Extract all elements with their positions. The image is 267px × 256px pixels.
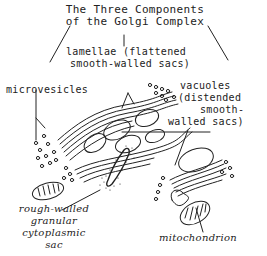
label-mitochondrion: mitochondrion xyxy=(143,232,253,243)
golgi-diagram: The Three Components of the Golgi Comple… xyxy=(0,0,267,256)
label-lamellae-line2: smooth-walled sacs) xyxy=(70,58,190,69)
lamellae-leader-branch xyxy=(128,93,134,104)
label-rough-sac-line1: rough-walled xyxy=(4,203,104,214)
label-rough-sac-line4: sac xyxy=(4,239,104,250)
title-leader-vacuoles xyxy=(208,26,228,60)
label-rough-sac-line2: granular xyxy=(4,215,104,226)
label-lamellae-line1: lamellae (flattened xyxy=(66,46,186,57)
microvesicles-leader-branch xyxy=(36,118,45,128)
mitochondrion-left xyxy=(30,179,65,203)
label-vacuoles-line3: smooth- xyxy=(200,104,244,115)
label-vacuoles-line2: (distended xyxy=(178,92,241,103)
label-microvesicles: microvesicles xyxy=(6,84,88,95)
label-vacuoles-line4: walled sacs) xyxy=(168,116,244,127)
label-rough-sac-line3: cytoplasmic xyxy=(4,227,104,238)
mitochondrion-right xyxy=(176,196,214,229)
diagram-title-line2: of the Golgi Complex xyxy=(45,16,225,28)
label-vacuoles-line1: vacuoles xyxy=(180,80,231,91)
rough-granular-sac xyxy=(99,145,134,190)
